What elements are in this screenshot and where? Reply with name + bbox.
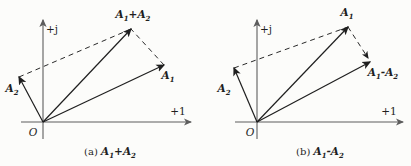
construction-line-a-0 xyxy=(19,29,131,77)
origin-label-a: O xyxy=(29,126,38,138)
vector-A1minusA2-label: A1-A2 xyxy=(367,66,399,81)
vector-A1plusA2 xyxy=(43,29,131,122)
construction-line-b-1 xyxy=(348,27,368,58)
caption-a: (a) A1+A2 xyxy=(84,145,136,160)
caption-b: (b) A1-A2 xyxy=(296,145,344,160)
vector-A2-label: A2 xyxy=(4,82,18,97)
y-axis-label: +j xyxy=(46,23,58,35)
vector-A2 xyxy=(234,68,257,122)
vector-A1 xyxy=(257,27,348,122)
vector-A1-label: A1 xyxy=(339,6,353,21)
diagram-a: +1+jA2A1A1+A2O(a) A1+A2 xyxy=(4,8,191,160)
vector-A2-label: A2 xyxy=(216,82,230,97)
vector-A1plusA2-label: A1+A2 xyxy=(115,8,151,23)
figure-canvas: +1+jA2A1A1+A2O(a) A1+A2+1+jA2A1A1-A2O(b)… xyxy=(0,0,411,166)
x-axis-label: +1 xyxy=(170,105,185,117)
vector-A1 xyxy=(43,65,164,122)
construction-line-a-1 xyxy=(131,29,164,65)
x-axis-label: +1 xyxy=(381,105,396,117)
y-axis-label: +j xyxy=(260,23,272,35)
vector-A1minusA2 xyxy=(257,62,370,122)
diagram-b: +1+jA2A1A1-A2O(b) A1-A2 xyxy=(216,6,403,160)
vector-A1-label: A1 xyxy=(160,69,174,84)
diagrams-root: +1+jA2A1A1+A2O(a) A1+A2+1+jA2A1A1-A2O(b)… xyxy=(4,6,403,160)
origin-label-b: O xyxy=(246,126,255,138)
vector-diagram-figure: +1+jA2A1A1+A2O(a) A1+A2+1+jA2A1A1-A2O(b)… xyxy=(0,0,411,166)
construction-line-b-0 xyxy=(234,27,348,68)
vector-A2 xyxy=(19,77,43,122)
